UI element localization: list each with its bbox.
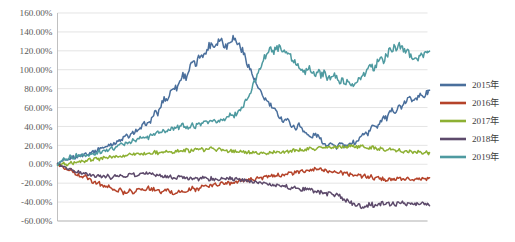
y-tick-label: -40.00% bbox=[21, 197, 53, 207]
y-tick-label: 120.00% bbox=[20, 46, 53, 56]
y-tick-label: 140.00% bbox=[20, 27, 53, 37]
y-tick-label: 20.00% bbox=[24, 141, 53, 151]
series-line-2017年 bbox=[58, 145, 430, 166]
y-tick-label: 60.00% bbox=[24, 103, 53, 113]
series-line-2018年 bbox=[58, 163, 430, 208]
data-series-group bbox=[58, 36, 430, 209]
y-tick-label: -60.00% bbox=[21, 216, 53, 226]
legend-label-2015年[interactable]: 2015年 bbox=[472, 79, 499, 90]
legend-label-2017年[interactable]: 2017年 bbox=[472, 115, 499, 126]
y-tick-label: 40.00% bbox=[24, 122, 53, 132]
legend-label-2018年[interactable]: 2018年 bbox=[472, 133, 499, 144]
legend[interactable]: 2015年2016年2017年2018年2019年 bbox=[440, 79, 499, 162]
y-axis-tick-labels: 160.00%140.00%120.00%100.00%80.00%60.00%… bbox=[20, 8, 53, 226]
line-chart-svg: 160.00%140.00%120.00%100.00%80.00%60.00%… bbox=[0, 0, 515, 242]
legend-label-2016年[interactable]: 2016年 bbox=[472, 97, 499, 108]
y-tick-label: 160.00% bbox=[20, 8, 53, 18]
chart-container: 160.00%140.00%120.00%100.00%80.00%60.00%… bbox=[0, 0, 515, 242]
legend-label-2019年[interactable]: 2019年 bbox=[472, 151, 499, 162]
y-tick-label: -20.00% bbox=[21, 178, 53, 188]
y-tick-label: 80.00% bbox=[24, 84, 53, 94]
y-tick-label: 0.00% bbox=[29, 159, 53, 169]
plot-area: 160.00%140.00%120.00%100.00%80.00%60.00%… bbox=[0, 0, 515, 242]
series-line-2016年 bbox=[58, 164, 430, 194]
y-tick-label: 100.00% bbox=[20, 65, 53, 75]
